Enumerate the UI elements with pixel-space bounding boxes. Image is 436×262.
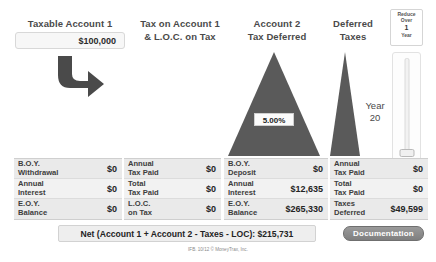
row-value: $0: [107, 184, 122, 194]
row-value: $265,330: [285, 204, 328, 214]
account2-triangle: [228, 52, 320, 156]
table-row: E.O.Y. Balance $265,330: [224, 199, 328, 219]
net-summary-bar: Net (Account 1 + Account 2 - Taxes - LOC…: [58, 225, 316, 242]
row-value: $0: [206, 164, 221, 174]
net-summary-text: Net (Account 1 + Account 2 - Taxes - LOC…: [81, 229, 294, 239]
row-value: $0: [107, 204, 122, 214]
year-label-line1: Year: [361, 100, 389, 112]
column-header-account1: Taxable Account 1: [8, 17, 132, 30]
table-row: Total Tax Paid $0: [330, 179, 428, 199]
row-label: Annual Tax Paid: [124, 160, 206, 177]
row-label: L.O.C. on Tax: [124, 200, 206, 217]
documentation-button-label: Documentation: [353, 229, 414, 238]
row-label: B.O.Y. Deposit: [224, 160, 313, 177]
account2-table: B.O.Y. Deposit $0 Annual Interest $12,63…: [224, 158, 328, 220]
reduce-over-line2: Over: [391, 17, 422, 23]
year-label: Year 20: [361, 100, 389, 124]
slider-track[interactable]: [404, 58, 409, 156]
row-label: Annual Interest: [14, 180, 107, 197]
row-value: $0: [413, 164, 428, 174]
row-value: $0: [413, 184, 428, 194]
row-value: $0: [107, 164, 122, 174]
tax-on-account1-table: Annual Tax Paid $0 Total Tax Paid $0 L.O…: [124, 158, 221, 220]
row-label: Total Tax Paid: [330, 180, 413, 197]
row-label: B.O.Y. Withdrawal: [14, 160, 107, 177]
documentation-button[interactable]: Documentation: [343, 226, 424, 241]
row-label: Annual Interest: [224, 180, 290, 197]
reduce-over-line3: Year: [391, 32, 422, 38]
deferred-taxes-title-line1: Deferred: [320, 17, 386, 30]
reduce-over-slider[interactable]: [392, 52, 421, 162]
taxable-account1-input[interactable]: $100,000: [15, 32, 125, 49]
row-value: $12,635: [290, 184, 328, 194]
row-value: $0: [206, 184, 221, 194]
reduce-over-box[interactable]: Reduce Over 1 Year: [390, 9, 423, 46]
table-row: Annual Tax Paid $0: [330, 159, 428, 179]
table-row: Annual Interest $0: [14, 179, 122, 199]
column-header-account2: Account 2 Tax Deferred: [232, 17, 322, 43]
deferred-taxes-title-line2: Taxes: [320, 30, 386, 43]
row-label: E.O.Y. Balance: [14, 200, 107, 217]
tax-on-account1-title-line1: Tax on Account 1: [128, 17, 232, 30]
table-row: E.O.Y. Balance $0: [14, 199, 122, 219]
year-label-line2: 20: [361, 112, 389, 124]
account2-rate-input[interactable]: 5.00%: [254, 113, 294, 126]
arrow-icon: [52, 56, 106, 98]
row-value: $0: [313, 164, 328, 174]
table-row: L.O.C. on Tax $0: [124, 199, 221, 219]
table-row: Annual Tax Paid $0: [124, 159, 221, 179]
row-label: Total Tax Paid: [124, 180, 206, 197]
table-row: Annual Interest $12,635: [224, 179, 328, 199]
table-row: Total Tax Paid $0: [124, 179, 221, 199]
table-row: B.O.Y. Deposit $0: [224, 159, 328, 179]
row-value: $0: [206, 204, 221, 214]
triangle-icon: [330, 52, 360, 156]
deferred-taxes-table: Annual Tax Paid $0 Total Tax Paid $0 Tax…: [330, 158, 428, 220]
deferred-taxes-triangle: [330, 52, 360, 156]
row-label: Annual Tax Paid: [330, 160, 413, 177]
account2-title-line2: Tax Deferred: [232, 30, 322, 43]
reduce-over-value[interactable]: 1: [391, 24, 422, 32]
account2-title-line1: Account 2: [232, 17, 322, 30]
row-label: Taxes Deferred: [330, 200, 390, 217]
copyright-text: IFB. 10/12 © MoneyTrax, Inc.: [0, 247, 436, 253]
table-row: B.O.Y. Withdrawal $0: [14, 159, 122, 179]
column-header-tax-on-account1: Tax on Account 1 & L.O.C. on Tax: [128, 17, 232, 43]
calculator-screen: Taxable Account 1 Tax on Account 1 & L.O…: [0, 0, 436, 262]
row-value: $49,599: [390, 204, 428, 214]
account1-table: B.O.Y. Withdrawal $0 Annual Interest $0 …: [14, 158, 122, 220]
flow-arrow: [52, 56, 106, 98]
column-header-deferred-taxes: Deferred Taxes: [320, 17, 386, 43]
copyright-label: IFB. 10/12 © MoneyTrax, Inc.: [188, 247, 248, 252]
triangle-icon: [228, 52, 320, 156]
account1-title: Taxable Account 1: [8, 17, 132, 30]
table-row: Taxes Deferred $49,599: [330, 199, 428, 219]
slider-thumb[interactable]: [399, 149, 414, 157]
tax-on-account1-title-line2: & L.O.C. on Tax: [128, 30, 232, 43]
row-label: E.O.Y. Balance: [224, 200, 285, 217]
